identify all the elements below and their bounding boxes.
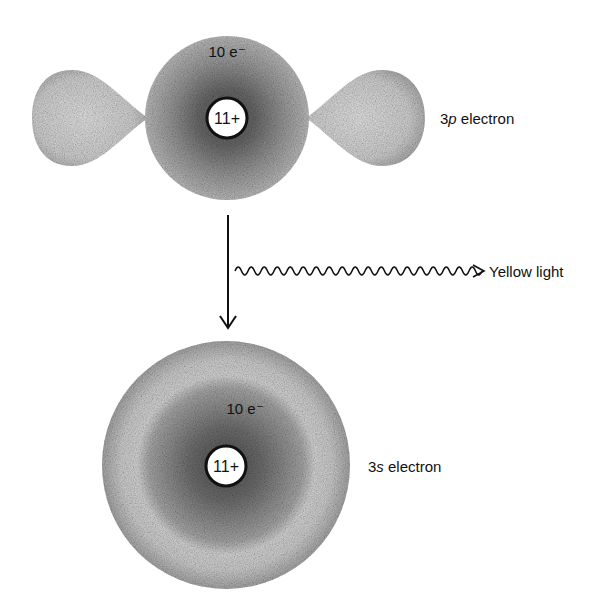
transition-arrow bbox=[220, 215, 236, 328]
orbital-label-3p: 3p electron bbox=[440, 110, 514, 127]
photon-wave: Yellow light bbox=[235, 263, 564, 280]
nucleus-label: 11+ bbox=[213, 458, 239, 475]
orbital-label-3s: 3s electron bbox=[368, 458, 441, 475]
top-atom-3p: 11+ 10 e⁻ 3p electron bbox=[32, 36, 514, 200]
bottom-atom-3s: 11+ 10 e⁻ 3s electron bbox=[102, 341, 441, 589]
sodium-emission-diagram: 11+ 10 e⁻ 3p electron Yellow light 11+ 1… bbox=[0, 0, 615, 616]
p-orbital-left-lobe bbox=[32, 70, 148, 166]
nucleus-label: 11+ bbox=[214, 110, 240, 127]
core-electrons-label: 10 e⁻ bbox=[226, 400, 263, 417]
emission-label: Yellow light bbox=[489, 263, 564, 280]
p-orbital-right-lobe bbox=[306, 70, 425, 166]
core-electrons-label: 10 e⁻ bbox=[208, 43, 245, 60]
